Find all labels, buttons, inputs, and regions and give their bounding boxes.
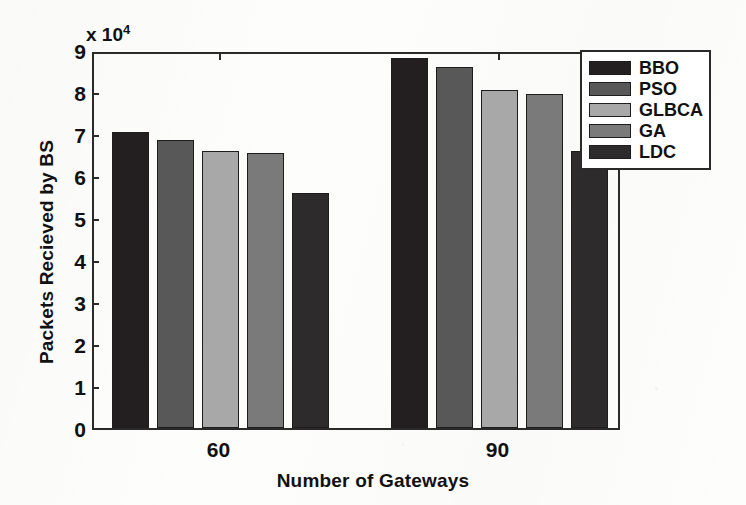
y-tick-label-5: 5: [56, 208, 86, 232]
bar-ga-60: [247, 153, 284, 428]
legend-item-glbca[interactable]: GLBCA: [589, 99, 703, 120]
legend-swatch-ldc: [589, 145, 631, 159]
bar-glbca-60: [202, 151, 239, 428]
legend-item-pso[interactable]: PSO: [589, 78, 703, 99]
y-tick-label-2: 2: [56, 334, 86, 358]
y-tick-label-6: 6: [56, 166, 86, 190]
legend-swatch-glbca: [589, 103, 631, 117]
bar-pso-60: [157, 140, 194, 428]
legend-label-glbca: GLBCA: [639, 101, 703, 119]
plot-area: [92, 52, 620, 430]
y-axis-multiplier-text: x 10: [86, 24, 123, 45]
bar-ldc-60: [292, 193, 329, 428]
x-axis-title: Number of Gateways: [0, 470, 746, 492]
legend-swatch-bbo: [589, 61, 631, 75]
legend-item-ga[interactable]: GA: [589, 120, 703, 141]
y-tick-label-8: 8: [56, 82, 86, 106]
bar-chart-figure: x 104 Packets Recieved by BS 0123456789 …: [0, 0, 746, 505]
legend-label-pso: PSO: [639, 80, 677, 98]
legend-swatch-pso: [589, 82, 631, 96]
y-tick-label-4: 4: [56, 250, 86, 274]
legend-item-bbo[interactable]: BBO: [589, 57, 703, 78]
legend-label-ga: GA: [639, 122, 666, 140]
bar-pso-90: [436, 67, 473, 428]
legend-item-ldc[interactable]: LDC: [589, 141, 703, 162]
x-tick-label-60: 60: [184, 438, 254, 462]
bar-bbo-90: [391, 58, 428, 428]
legend-label-bbo: BBO: [639, 59, 679, 77]
y-axis-multiplier: x 104: [86, 22, 130, 46]
y-tick-label-9: 9: [56, 40, 86, 64]
y-axis-multiplier-exponent: 4: [123, 22, 130, 37]
x-tick-mark: [498, 52, 500, 60]
y-tick-label-7: 7: [56, 124, 86, 148]
x-tick-label-90: 90: [463, 438, 533, 462]
bar-bbo-60: [112, 132, 149, 428]
y-tick-label-3: 3: [56, 292, 86, 316]
y-axis-title: Packets Recieved by BS: [36, 97, 58, 407]
bar-ldc-90: [571, 151, 608, 428]
y-tick-label-1: 1: [56, 376, 86, 400]
legend-label-ldc: LDC: [639, 143, 676, 161]
x-tick-mark: [219, 52, 221, 60]
bar-glbca-90: [481, 90, 518, 428]
legend: BBOPSOGLBCAGALDC: [580, 50, 711, 170]
legend-swatch-ga: [589, 124, 631, 138]
bar-ga-90: [526, 94, 563, 428]
y-tick-label-0: 0: [56, 418, 86, 442]
